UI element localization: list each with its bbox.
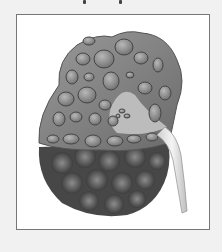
clipped-text-fragment (83, 0, 86, 4)
clipped-text-fragment (119, 0, 122, 4)
polycystic-kidney-illustration (17, 15, 209, 229)
image-frame (16, 14, 210, 230)
